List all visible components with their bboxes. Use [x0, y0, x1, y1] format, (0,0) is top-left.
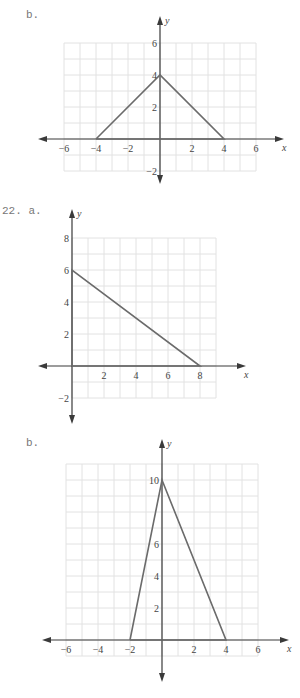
x-tick-label: 2: [102, 370, 107, 381]
x-tick-label: −6: [59, 143, 70, 154]
x-tick-label: −6: [61, 644, 72, 655]
y-tick-label: 6: [64, 265, 69, 276]
y-tick-label: −2: [146, 166, 157, 177]
x-tick-label: 4: [222, 143, 227, 154]
x-tick-label: 2: [192, 644, 197, 655]
x-tick-label: 6: [256, 644, 261, 655]
y-axis-label: y: [166, 438, 172, 449]
arrow-down-icon: [157, 175, 163, 184]
y-axis-label: y: [164, 15, 170, 26]
arrow-up-icon: [159, 439, 165, 448]
arrow-down-icon: [69, 415, 75, 424]
x-axis-label: x: [243, 369, 249, 380]
y-tick-label: 6: [154, 539, 159, 550]
x-tick-label: −2: [123, 143, 134, 154]
x-tick-label: 8: [198, 370, 203, 381]
y-tick-label: 2: [64, 329, 69, 340]
x-tick-label: 4: [224, 644, 229, 655]
y-tick-label: 4: [64, 297, 69, 308]
y-axis-label: y: [76, 208, 82, 219]
graph-1: xy−6−4−2246−2246: [38, 15, 287, 184]
arrow-left-icon: [38, 136, 47, 142]
x-tick-label: 6: [254, 143, 259, 154]
arrow-up-icon: [157, 16, 163, 25]
graph-3: xy−6−4−224624610: [42, 438, 292, 682]
grid: [72, 238, 216, 398]
y-tick-label: −2: [58, 393, 69, 404]
x-tick-label: −4: [91, 143, 102, 154]
graph-2: xy2468−22468: [38, 208, 249, 424]
y-tick-label: 2: [152, 102, 157, 113]
y-tick-label: 10: [149, 475, 159, 486]
y-tick-label: 8: [64, 233, 69, 244]
y-tick-label: 4: [154, 571, 159, 582]
arrow-left-icon: [38, 363, 47, 369]
arrow-left-icon: [42, 637, 51, 643]
x-axis-label: x: [286, 643, 292, 654]
graphs-canvas: xy−6−4−2246−2246xy2468−22468xy−6−4−22462…: [0, 0, 300, 698]
x-tick-label: −4: [93, 644, 104, 655]
arrow-down-icon: [159, 673, 165, 682]
x-tick-label: 4: [134, 370, 139, 381]
x-tick-label: 6: [166, 370, 171, 381]
y-tick-label: 2: [154, 603, 159, 614]
x-axis-label: x: [281, 142, 287, 153]
y-tick-label: 6: [152, 38, 157, 49]
x-tick-label: 2: [190, 143, 195, 154]
x-tick-label: −2: [125, 644, 136, 655]
arrow-up-icon: [69, 209, 75, 218]
